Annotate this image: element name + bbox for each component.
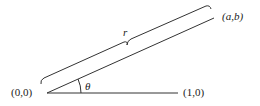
polar-coordinates-diagram: (0,0) (1,0) (a,b) r θ: [0, 0, 260, 106]
origin-label: (0,0): [11, 86, 32, 99]
radius-line: [47, 18, 214, 93]
radius-label: r: [123, 26, 128, 38]
angle-arc: [78, 79, 81, 93]
point-label: (a,b): [222, 10, 243, 23]
unit-point-label: (1,0): [183, 86, 204, 99]
angle-label: θ: [85, 80, 91, 92]
radius-brace: [41, 6, 211, 84]
